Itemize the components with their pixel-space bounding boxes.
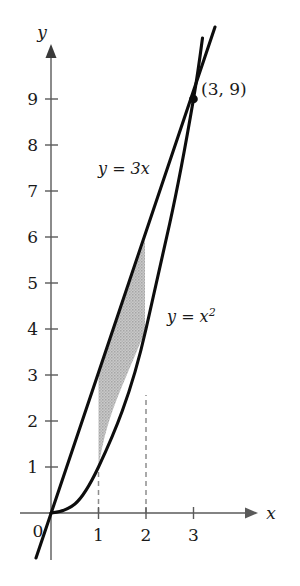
- y-tick-label-9: 9: [27, 89, 38, 109]
- y-axis-label: y: [36, 22, 47, 42]
- y-tick-label-3: 3: [27, 365, 38, 385]
- annotation-parabola-equation: y = x2: [166, 306, 216, 326]
- annotation-line-equation: y = 3x: [97, 159, 150, 178]
- graph-svg: 9 8 7 6 5 4 3 2 1 1 2 3 0 y x y = 3x y =…: [0, 0, 300, 586]
- y-tick-label-4: 4: [27, 319, 38, 339]
- x-tick-label-2: 2: [141, 525, 152, 545]
- y-axis: [45, 44, 58, 560]
- y-tick-label-8: 8: [27, 135, 38, 155]
- y-axis-arrowhead: [46, 44, 57, 58]
- y-tick-label-1: 1: [27, 457, 38, 477]
- y-tick-label-5: 5: [27, 273, 38, 293]
- point-marker-3-9: [189, 95, 198, 104]
- x-axis-label: x: [266, 503, 276, 523]
- x-tick-label-1: 1: [93, 525, 104, 545]
- x-axis-arrowhead: [245, 508, 258, 519]
- curve-line-y-equals-3x: [36, 27, 215, 558]
- y-tick-label-6: 6: [27, 227, 38, 247]
- y-tick-label-7: 7: [27, 181, 38, 201]
- annotation-point-3-9: (3, 9): [201, 79, 247, 99]
- annotation-parabola-base: y = x: [166, 307, 209, 326]
- y-tick-label-2: 2: [27, 411, 38, 431]
- annotation-parabola-exponent: 2: [208, 306, 216, 319]
- figure-container: 9 8 7 6 5 4 3 2 1 1 2 3 0 y x y = 3x y =…: [0, 0, 300, 586]
- x-tick-label-3: 3: [188, 525, 199, 545]
- origin-label: 0: [33, 521, 44, 541]
